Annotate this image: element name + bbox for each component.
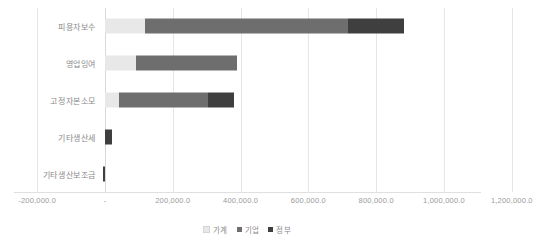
legend-label: 가계 [213,224,228,235]
bar-track [105,129,481,144]
bar-row: 기타생산보조금 [105,155,481,192]
bar-segment-가계[interactable] [105,19,145,34]
x-tick-label: -200,000.0 [18,196,56,205]
legend-item-정부[interactable]: 정부 [268,224,291,235]
x-tick-label: 1,200,000.0 [491,196,533,205]
bar-row: 고정자본소모 [105,82,481,119]
x-tick-label: 200,000.0 [155,196,190,205]
bar-row: 기타생산세 [105,118,481,155]
bar-segment-정부[interactable] [208,92,235,107]
legend-item-기업[interactable]: 기업 [237,224,260,235]
bar-track [105,19,481,34]
legend-swatch-icon [203,226,210,233]
category-label: 기타생산보조금 [43,168,96,179]
bar-row: 영업잉여 [105,45,481,82]
legend-item-가계[interactable]: 가계 [203,224,228,235]
legend-label: 기업 [245,224,260,235]
x-axis-tick-labels: -200,000.0-200,000.0400,000.0600,000.080… [0,196,494,212]
bar-segment-기업[interactable] [136,56,237,71]
bar-segment-기업[interactable] [145,19,348,34]
bar-track [105,166,481,181]
legend-swatch-icon [237,227,242,232]
x-axis-baseline [14,192,481,193]
gridline [512,8,513,192]
bar-track [105,56,481,71]
category-label: 영업잉여 [66,58,96,69]
x-tick-label: 800,000.0 [359,196,394,205]
legend-swatch-icon [268,227,273,232]
category-label: 고정자본소모 [50,94,96,105]
gridline [37,8,38,192]
bar-segment-가계[interactable] [105,56,136,71]
bar-segment-가계[interactable] [105,92,119,107]
bar-segment-정부[interactable] [105,129,112,144]
x-tick-label: 600,000.0 [291,196,326,205]
plot-area: 피용자보수영업잉여고정자본소모기타생산세기타생산보조금 [105,8,481,192]
bar-segment-기업[interactable] [119,92,208,107]
x-tick-label: 400,000.0 [223,196,258,205]
x-tick-label: 1,000,000.0 [423,196,465,205]
category-label: 피용자보수 [58,21,96,32]
category-label: 기타생산세 [58,131,96,142]
bar-segment-정부[interactable] [348,19,404,34]
bar-track [105,92,481,107]
bar-segment-정부[interactable] [103,166,105,181]
x-tick-label: - [104,196,107,205]
chart-legend: 가계기업정부 [0,224,494,235]
bar-row: 피용자보수 [105,8,481,45]
legend-label: 정부 [276,224,291,235]
